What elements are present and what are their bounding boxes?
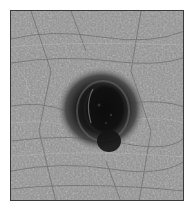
- pigmented-lesion: [11, 11, 184, 201]
- photo-frame: [10, 10, 184, 201]
